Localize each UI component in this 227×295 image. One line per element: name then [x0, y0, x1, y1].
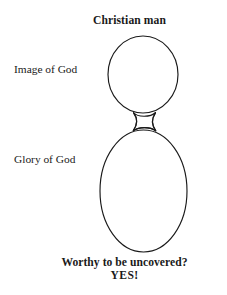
caption-question: Worthy to be uncovered? [22, 256, 227, 269]
caption-answer: YES! [22, 269, 227, 282]
body-shape [100, 130, 187, 252]
page-title: Christian man [0, 14, 227, 27]
diagram-canvas: Christian man Image of God Glory of God … [0, 0, 227, 295]
head-shape [108, 36, 178, 113]
caption-block: Worthy to be uncovered? YES! [0, 256, 227, 282]
label-glory-of-god: Glory of God [14, 153, 75, 166]
figure-graphic [0, 0, 227, 295]
label-image-of-god: Image of God [14, 63, 77, 76]
